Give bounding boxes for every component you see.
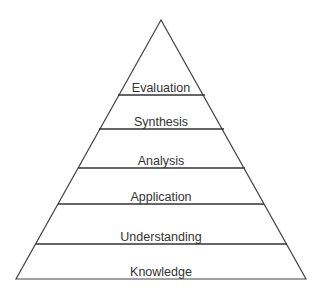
pyramid-diagram [0, 0, 324, 295]
level-understanding: Understanding [61, 230, 261, 244]
level-synthesis: Synthesis [61, 115, 261, 129]
level-analysis: Analysis [61, 154, 261, 168]
level-application: Application [61, 190, 261, 204]
level-evaluation: Evaluation [61, 81, 261, 95]
level-knowledge: Knowledge [61, 265, 261, 279]
